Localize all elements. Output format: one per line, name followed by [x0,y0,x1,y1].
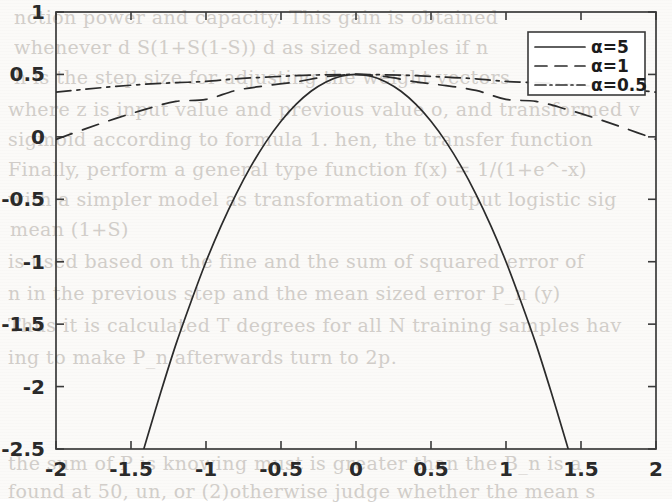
legend-label: α=0.5 [591,75,647,95]
x-tick-label: -2 [45,457,67,481]
x-tick-label: 2 [649,457,663,481]
y-tick-label: 0 [31,125,45,149]
y-tick-label: 0.5 [10,62,45,86]
x-tick-label: 1 [499,457,513,481]
x-tick-label: 1.5 [563,457,598,481]
curve-alpha-5 [139,74,574,467]
y-tick-label: -1.5 [1,312,45,336]
y-tick-label: -1 [23,250,45,274]
x-tick-label: 0 [349,457,363,481]
x-tick-label: -0.5 [259,457,303,481]
x-tick-label: -1.5 [109,457,153,481]
y-tick-label: 1 [31,0,45,24]
y-tick-label: -2.5 [1,437,45,461]
y-tick-label: -2 [23,375,45,399]
y-tick-label: -0.5 [1,187,45,211]
data-curves [56,74,656,467]
y-axis-tick-labels: 10.50-0.5-1-1.5-2-2.5 [1,0,45,461]
x-tick-label: -1 [195,457,217,481]
x-tick-label: 0.5 [413,457,448,481]
legend-label: α=5 [591,37,629,57]
x-axis-tick-labels: -2-1.5-1-0.500.511.52 [45,457,663,481]
chart-legend: α=5α=1α=0.5 [528,32,647,95]
legend-label: α=1 [591,56,629,76]
